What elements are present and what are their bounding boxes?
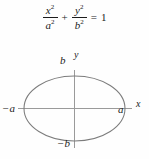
term-2-denominator: b2 [73,18,86,31]
ellipse-equation: x2 a2 + y2 b2 = 1 [0,4,149,30]
label-y-axis: y [74,50,78,60]
label-bottom-vertex-negative-b: −b [57,138,70,149]
figure-page: x2 a2 + y2 b2 = 1 b y −a a x −b [0,0,149,159]
ellipse-diagram: b y −a a x −b [0,50,149,159]
label-right-vertex-a: a [118,104,124,115]
term-1-denominator-exponent: 2 [51,18,55,26]
equation-right-hand-side: 1 [101,12,107,23]
term-1-denominator: a2 [44,18,57,31]
term-2-numerator: y2 [73,4,85,17]
equation-equals-sign: = [90,12,98,23]
label-x-axis: x [136,99,140,109]
term-2-numerator-exponent: 2 [80,3,84,11]
label-left-vertex-negative-a: −a [2,103,15,114]
ellipse-plot-svg [0,50,149,159]
equation-plus-operator: + [61,12,69,23]
term-1-numerator: x2 [44,4,56,17]
equation-term-1: x2 a2 [43,4,58,30]
equation-term-2: y2 b2 [72,4,87,30]
term-1-numerator-exponent: 2 [51,3,55,11]
term-2-denominator-exponent: 2 [80,18,84,26]
label-top-vertex-b: b [60,55,66,66]
